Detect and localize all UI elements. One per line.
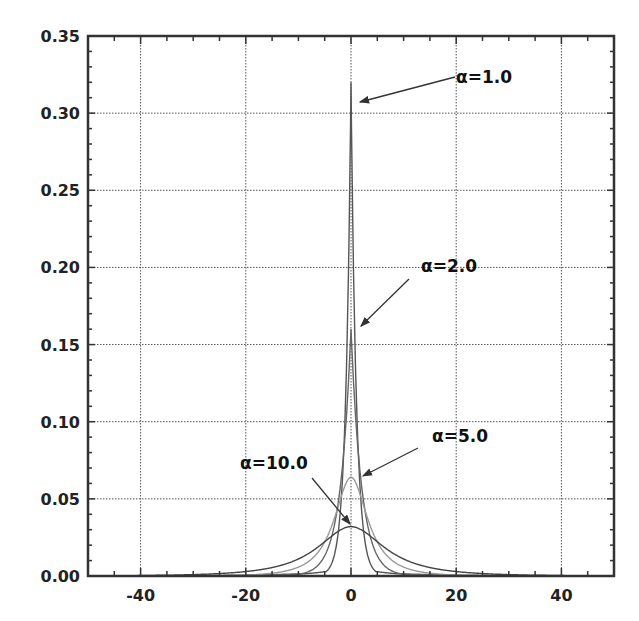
y-tick-label: 0.25 [41,181,80,200]
annotation-arrow [312,478,350,524]
y-tick-label: 0.30 [41,104,80,123]
annotation-arrow [360,77,455,102]
y-tick-label: 0.15 [41,336,80,355]
annotation-label: α=1.0 [456,67,512,87]
y-tick-label: 0.00 [41,567,80,586]
y-tick-label: 0.35 [41,27,80,46]
annotation-label: α=5.0 [432,426,488,446]
x-tick-label: 0 [345,586,356,605]
chart: 0.000.050.100.150.200.250.300.35 -40-200… [0,0,639,621]
y-axis: 0.000.050.100.150.200.250.300.35 [41,27,614,586]
annotations: α=1.0α=2.0α=5.0α=10.0 [240,67,512,524]
y-tick-label: 0.20 [41,258,80,277]
x-tick-label: -40 [126,586,155,605]
annotation-label: α=2.0 [421,256,477,276]
y-tick-label: 0.05 [41,490,80,509]
y-tick-label: 0.10 [41,413,80,432]
annotation-arrow [361,279,409,326]
x-tick-label: 20 [445,586,467,605]
x-tick-label: 40 [550,586,572,605]
annotation-label: α=10.0 [240,453,308,473]
x-tick-label: -20 [231,586,260,605]
annotation-arrow [363,448,418,476]
